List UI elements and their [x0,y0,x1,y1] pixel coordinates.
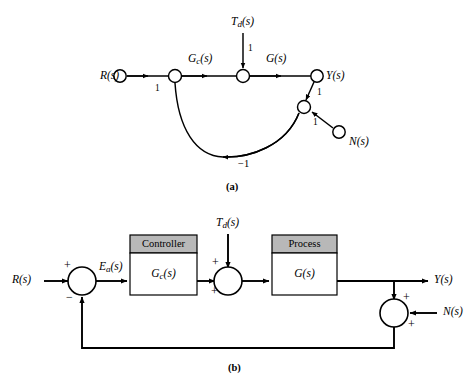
sfg-edge-y-to-junction [306,82,314,100]
sfg-gain-y-to-junction: 1 [317,88,322,98]
sum-noise-sign-top: + [403,291,410,303]
bd-wire-feedback [82,297,394,348]
caption-a: (a) [226,182,238,193]
bd-wires [44,234,437,348]
bd-output-tap [394,281,395,282]
control-system-figure: R(s) Td(s) Gc(s) G(s) Y(s) N(s) 1 1 1 1 … [0,0,476,389]
bd-label-input: R(s) [12,274,31,286]
sfg-label-y: Y(s) [326,70,345,82]
bd-label-noise: N(s) [443,306,463,318]
sum-error-sign-plus: + [64,259,71,271]
caption-b: (b) [228,363,241,374]
bd-label-error: Ea(s) [99,261,123,274]
sfg-edge-feedback-curve [175,83,299,157]
sfg-node-n [333,126,345,138]
sfg-edges [127,33,333,157]
sfg-gain-feedback: −1 [238,159,249,170]
sum-disturbance-sign-bottom: + [211,285,218,297]
sfg-label-r: R(s) [100,70,119,82]
process-transfer-function: G(s) [272,268,337,281]
bd-label-output: Y(s) [434,274,453,286]
sfg-nodes [114,70,345,139]
controller-transfer-function: Gc(s) [130,268,197,281]
sum-disturbance-sign-top: + [212,256,219,268]
sum-error-sign-minus: − [66,291,73,303]
sfg-node-mid [237,70,250,83]
diagram-canvas [0,0,476,389]
sfg-label-td: Td(s) [231,16,254,29]
process-title: Process [272,239,337,250]
sfg-label-gc: Gc(s) [188,53,212,66]
sum-noise-sign-bottom: + [408,318,415,330]
sfg-label-g: G(s) [266,53,286,65]
sfg-node-y [311,70,323,82]
sfg-node-junction [298,101,311,114]
sfg-label-n: N(s) [349,136,369,148]
bd-label-disturbance: Td(s) [216,217,239,230]
sfg-gain-td: 1 [248,44,253,54]
sfg-node-sum [169,70,182,83]
sfg-gain-n-to-junction: 1 [313,118,318,128]
bd-summing-junctions [68,267,408,327]
controller-title: Controller [130,239,197,250]
summing-junction-disturbance [214,267,242,295]
sfg-gain-r-to-sum: 1 [155,84,160,94]
